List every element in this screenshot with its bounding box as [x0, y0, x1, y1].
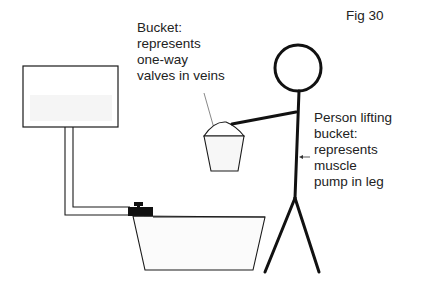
person-annotation-line: bucket:	[314, 126, 392, 142]
upper-tank	[23, 66, 118, 127]
bucket-annotation-line: valves in veins	[137, 68, 225, 84]
pipe	[65, 127, 130, 215]
person-annotation-line: represents	[314, 142, 392, 158]
bucket-annotation: Bucket: represents one-way valves in vei…	[137, 20, 225, 84]
person-annotation-line: pump in leg	[314, 174, 392, 190]
bucket	[204, 122, 244, 171]
lower-basin	[133, 216, 265, 270]
person-annotation-line: Person lifting	[314, 110, 392, 126]
person-annotation-line: muscle	[314, 158, 392, 174]
figure-label: Fig 30	[346, 8, 384, 24]
diagram-canvas: Fig 30 Bucket: represents one-way valves…	[0, 0, 426, 295]
leg-pointer-arrow	[299, 155, 310, 159]
person-annotation: Person lifting bucket: represents muscle…	[314, 110, 392, 190]
bucket-annotation-line: Bucket:	[137, 20, 225, 36]
bucket-annotation-line: represents	[137, 36, 225, 52]
bucket-annotation-line: one-way	[137, 52, 225, 68]
